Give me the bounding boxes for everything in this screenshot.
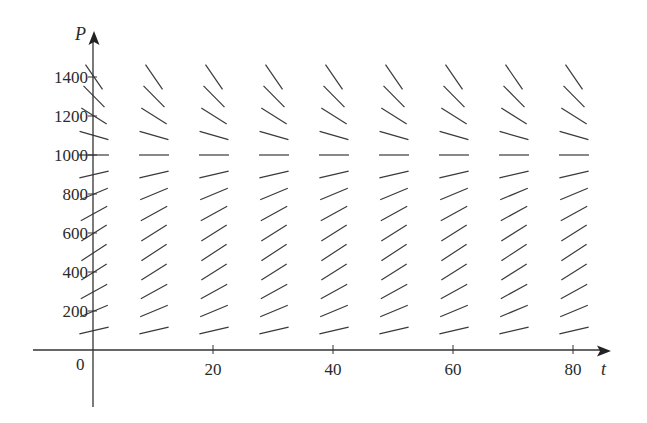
- slope-segment: [380, 305, 408, 317]
- slope-segment: [561, 206, 587, 220]
- slope-segment: [81, 206, 107, 220]
- slope-segment: [379, 171, 408, 178]
- slope-segment: [444, 86, 465, 107]
- slope-segment: [561, 244, 586, 260]
- slope-segment: [441, 108, 466, 124]
- slope-segment: [201, 264, 226, 280]
- slope-segment: [501, 225, 526, 241]
- slope-segment: [386, 65, 403, 90]
- slope-segment: [200, 188, 228, 200]
- axes: [33, 31, 611, 407]
- y-tick-label-800: 800: [28, 186, 88, 203]
- slope-segment: [260, 305, 288, 317]
- slope-segment: [501, 108, 526, 124]
- slope-segment: [440, 188, 468, 200]
- slope-segment: [141, 206, 167, 220]
- slope-segment: [561, 264, 586, 280]
- slope-segment: [500, 131, 529, 139]
- slope-segment: [201, 284, 227, 298]
- slope-segment: [266, 65, 283, 90]
- slope-segment: [561, 108, 586, 124]
- slope-segment: [319, 171, 348, 178]
- slope-segment: [139, 327, 168, 334]
- slope-segment: [501, 244, 526, 260]
- slope-segment: [439, 327, 468, 334]
- slope-segment: [560, 188, 588, 200]
- slope-segment: [80, 131, 109, 139]
- slope-segment: [499, 327, 528, 334]
- slope-segment: [320, 188, 348, 200]
- slope-segment: [146, 65, 163, 90]
- slope-segment: [381, 284, 407, 298]
- x-tick-label-80: 80: [553, 361, 593, 378]
- origin-label: 0: [76, 356, 85, 373]
- slope-segment: [501, 264, 526, 280]
- slope-segment: [500, 188, 528, 200]
- slope-segment: [559, 327, 588, 334]
- slope-segment: [441, 225, 466, 241]
- slope-segment: [144, 86, 165, 107]
- y-tick-label-1400: 1400: [28, 69, 88, 86]
- y-tick-label-600: 600: [28, 225, 88, 242]
- slope-segment: [141, 225, 166, 241]
- slope-segment: [141, 108, 166, 124]
- slope-segment: [321, 284, 347, 298]
- slope-segment: [259, 327, 288, 334]
- slope-segment: [321, 244, 346, 260]
- slope-segment: [501, 206, 527, 220]
- slope-segment: [261, 206, 287, 220]
- slope-segment: [380, 131, 409, 139]
- slope-segment: [320, 305, 348, 317]
- x-tick-label-20: 20: [193, 361, 233, 378]
- x-axis-label: t: [601, 360, 606, 378]
- slope-segment: [261, 225, 286, 241]
- slope-field-plot: [0, 0, 647, 423]
- slope-segment: [141, 244, 166, 260]
- slope-segment: [139, 171, 168, 178]
- slope-segment: [199, 171, 228, 178]
- slope-segment: [446, 65, 463, 90]
- slope-segment: [501, 284, 527, 298]
- slope-segment: [140, 188, 168, 200]
- slope-segment: [559, 171, 588, 178]
- slope-segment: [81, 284, 107, 298]
- slope-segment: [319, 327, 348, 334]
- slope-segment: [199, 327, 228, 334]
- slope-segment: [561, 225, 586, 241]
- slope-segment: [141, 284, 167, 298]
- slope-segment: [560, 131, 589, 139]
- slope-segment: [441, 264, 466, 280]
- slope-segment: [81, 244, 106, 260]
- slope-segment: [561, 284, 587, 298]
- slope-segment: [260, 131, 289, 139]
- slope-segment: [380, 188, 408, 200]
- slope-segment: [324, 86, 345, 107]
- slope-segment: [384, 86, 405, 107]
- slope-segment: [440, 131, 469, 139]
- slope-segment: [441, 206, 467, 220]
- slope-segment: [381, 108, 406, 124]
- y-tick-label-1000: 1000: [28, 147, 88, 164]
- slope-segment: [321, 108, 346, 124]
- slope-segment: [439, 171, 468, 178]
- slope-segment: [321, 206, 347, 220]
- slope-segment: [379, 327, 408, 334]
- slope-segment: [259, 171, 288, 178]
- x-tick-label-40: 40: [313, 361, 353, 378]
- slope-segment: [201, 206, 227, 220]
- y-tick-label-1200: 1200: [28, 108, 88, 125]
- slope-segment: [381, 206, 407, 220]
- slope-segment: [440, 305, 468, 317]
- slope-segment: [261, 264, 286, 280]
- y-axis-label: P: [75, 25, 86, 43]
- slope-segment: [260, 188, 288, 200]
- slope-segment: [506, 65, 523, 90]
- slope-segment: [504, 86, 525, 107]
- slope-segment: [381, 225, 406, 241]
- slope-segment: [141, 264, 166, 280]
- slope-segment: [140, 305, 168, 317]
- slope-segment: [201, 108, 226, 124]
- slope-segment: [201, 225, 226, 241]
- slope-segment: [381, 244, 406, 260]
- slope-segment: [79, 171, 108, 178]
